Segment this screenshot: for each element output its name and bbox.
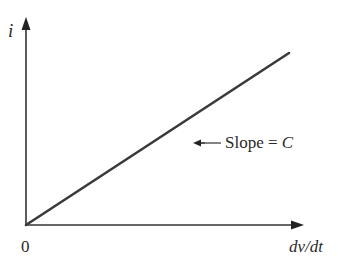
y-axis-arrowhead-icon [22, 17, 31, 30]
x-axis-label: dv/dt [289, 237, 323, 257]
origin-label: 0 [21, 237, 30, 257]
annotation-arrowhead-icon [193, 140, 201, 147]
x-axis-arrowhead-icon [291, 221, 304, 230]
y-axis-label: i [8, 20, 13, 42]
diagram-canvas [0, 0, 338, 261]
slope-annotation-prefix: Slope = [225, 133, 282, 152]
slope-annotation-symbol: C [282, 133, 293, 152]
slope-annotation: Slope = C [225, 133, 293, 153]
